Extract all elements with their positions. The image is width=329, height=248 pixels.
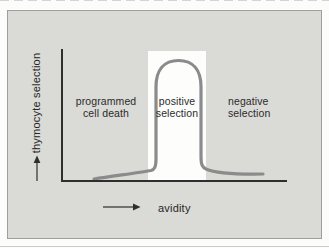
page-rule-top xyxy=(0,0,329,1)
page-rule-bottom xyxy=(0,246,329,247)
region-label-line: selection xyxy=(151,107,203,119)
figure-panel: programmed cell death positive selection… xyxy=(7,10,322,239)
region-label-line: selection xyxy=(228,107,270,119)
avidity-curve xyxy=(94,61,263,180)
y-axis-arrow-icon xyxy=(34,156,41,182)
region-label-programmed-cell-death: programmed cell death xyxy=(63,95,149,119)
region-label-positive-selection: positive selection xyxy=(151,95,203,119)
region-label-line: negative xyxy=(228,95,270,107)
region-label-line: programmed xyxy=(63,95,149,107)
region-label-line: cell death xyxy=(63,107,149,119)
region-label-negative-selection: negative selection xyxy=(228,95,270,119)
x-axis-title: avidity xyxy=(158,202,191,214)
region-label-line: positive xyxy=(151,95,203,107)
y-axis-title: thymocyte selection xyxy=(30,48,44,158)
x-axis-arrow-icon xyxy=(103,204,141,211)
